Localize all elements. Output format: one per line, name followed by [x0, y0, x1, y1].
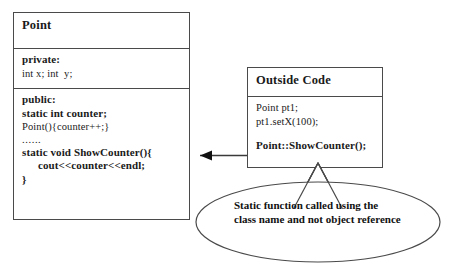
callout-text: Static function called using the class n… — [234, 198, 402, 226]
outside-code-line-2: Point::ShowCounter(); — [256, 139, 374, 153]
outside-code-title: Outside Code — [256, 72, 374, 88]
uml-class-point: Point private: int x; int y; public: sta… — [13, 12, 190, 220]
public-member-showcounter-close: } — [22, 173, 181, 187]
private-label: private: — [22, 53, 181, 67]
point-class-name: Point — [22, 17, 181, 33]
point-class-header: Point — [14, 13, 189, 48]
public-member-ellipsis: ...... — [22, 134, 181, 146]
point-public-section: public: static int counter; Point(){coun… — [14, 88, 189, 219]
connector-arrow-outside-to-point — [200, 151, 247, 161]
public-member-counter: static int counter; — [22, 107, 181, 121]
diagram-canvas: Point private: int x; int y; public: sta… — [0, 0, 449, 272]
private-member-0: int x; int y; — [22, 67, 181, 81]
public-member-showcounter-body: cout<<counter<<endl; — [22, 159, 181, 173]
outside-code-line-0: Point pt1; — [256, 101, 374, 115]
outside-code-header: Outside Code — [248, 68, 382, 96]
uml-box-outside-code: Outside Code Point pt1; pt1.setX(100); P… — [247, 67, 383, 168]
outside-code-body: Point pt1; pt1.setX(100); Point::ShowCou… — [248, 96, 382, 167]
outside-code-line-1: pt1.setX(100); — [256, 115, 374, 129]
point-private-section: private: int x; int y; — [14, 48, 189, 88]
public-member-constructor: Point(){counter++;} — [22, 120, 181, 134]
arrowhead-icon — [200, 151, 212, 161]
public-label: public: — [22, 93, 181, 107]
public-member-showcounter-signature: static void ShowCounter(){ — [22, 146, 181, 160]
outside-code-spacer — [256, 128, 374, 139]
